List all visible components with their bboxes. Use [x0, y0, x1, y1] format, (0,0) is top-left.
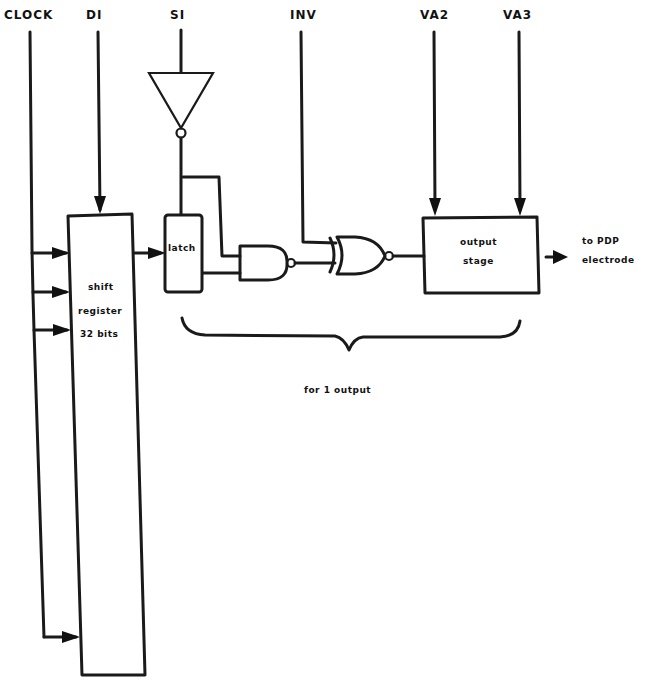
shift-register-label-2: register [78, 306, 122, 316]
va2-wire [434, 32, 435, 210]
di-wire [94, 32, 106, 214]
xnor-gate [330, 237, 424, 274]
arrow-icon [62, 631, 80, 643]
va3-wire [519, 32, 520, 210]
label-va2: VA2 [420, 8, 449, 22]
nand-gate [240, 246, 335, 280]
brace [182, 318, 520, 350]
arrow-icon [52, 286, 70, 298]
arrow-icon [514, 198, 526, 216]
circuit-diagram: CLOCK DI SI INV VA2 VA3 shift register 3… [0, 0, 658, 685]
label-clock: CLOCK [4, 8, 53, 22]
latch-label: latch [168, 243, 196, 253]
brace-label: for 1 output [304, 385, 371, 395]
arrow-icon [52, 247, 70, 259]
arrow-icon [148, 247, 166, 259]
label-inv: INV [290, 8, 317, 22]
label-si: SI [170, 8, 185, 22]
inverter-gate [149, 30, 240, 256]
inv-wire [301, 32, 336, 243]
label-di: DI [86, 8, 102, 22]
arrow-icon [553, 250, 568, 264]
output-label-2: electrode [582, 255, 635, 265]
latch-block: latch [165, 215, 240, 292]
output-stage-label-1: output [460, 237, 497, 247]
arrow-icon [94, 196, 106, 214]
shift-register-label-3: 32 bits [80, 329, 118, 339]
shift-register-label-1: shift [88, 282, 114, 292]
output-stage-label-2: stage [463, 256, 494, 266]
arrow-icon [429, 198, 441, 216]
output-label-1: to PDP [582, 236, 619, 246]
label-va3: VA3 [503, 8, 532, 22]
output-stage-block: output stage [423, 217, 539, 293]
shift-register-block: shift register 32 bits [68, 214, 145, 675]
arrow-icon [53, 324, 71, 336]
